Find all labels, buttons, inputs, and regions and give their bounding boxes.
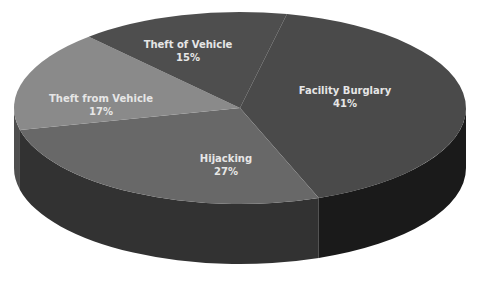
label-pct: 27% xyxy=(200,165,252,178)
label-facility-burglary: Facility Burglary 41% xyxy=(299,84,391,110)
pie-chart xyxy=(0,0,480,295)
label-hijacking: Hijacking 27% xyxy=(200,152,252,178)
label-theft-of-vehicle: Theft of Vehicle 15% xyxy=(144,38,233,64)
label-pct: 17% xyxy=(49,105,153,118)
label-name: Theft of Vehicle xyxy=(144,38,233,51)
label-name: Facility Burglary xyxy=(299,84,391,97)
label-pct: 41% xyxy=(299,97,391,110)
label-pct: 15% xyxy=(144,51,233,64)
label-theft-from-vehicle: Theft from Vehicle 17% xyxy=(49,92,153,118)
label-name: Hijacking xyxy=(200,152,252,165)
label-name: Theft from Vehicle xyxy=(49,92,153,105)
